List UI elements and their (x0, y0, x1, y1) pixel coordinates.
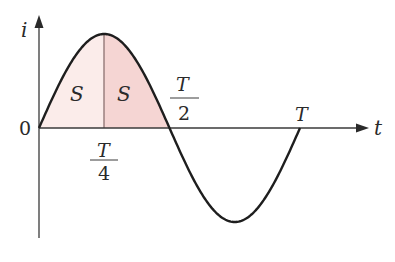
quarter-period-numerator: T (97, 139, 111, 161)
area-label-right: S (117, 82, 131, 106)
period-label: T (295, 103, 309, 125)
area-label-left: S (70, 82, 84, 106)
half-period-numerator: T (176, 73, 190, 95)
origin-label: 0 (19, 117, 31, 139)
area-region-first-quarter (39, 34, 104, 128)
y-axis-label: i (21, 18, 27, 42)
y-axis-arrow-icon (35, 15, 44, 28)
x-axis-label: t (374, 116, 383, 140)
x-axis-arrow-icon (356, 124, 369, 133)
sine-current-graph: i t 0 S S T 4 T 2 T (0, 0, 395, 262)
quarter-period-denominator: 4 (98, 162, 110, 184)
area-region-second-quarter (104, 34, 169, 128)
half-period-denominator: 2 (178, 102, 190, 124)
